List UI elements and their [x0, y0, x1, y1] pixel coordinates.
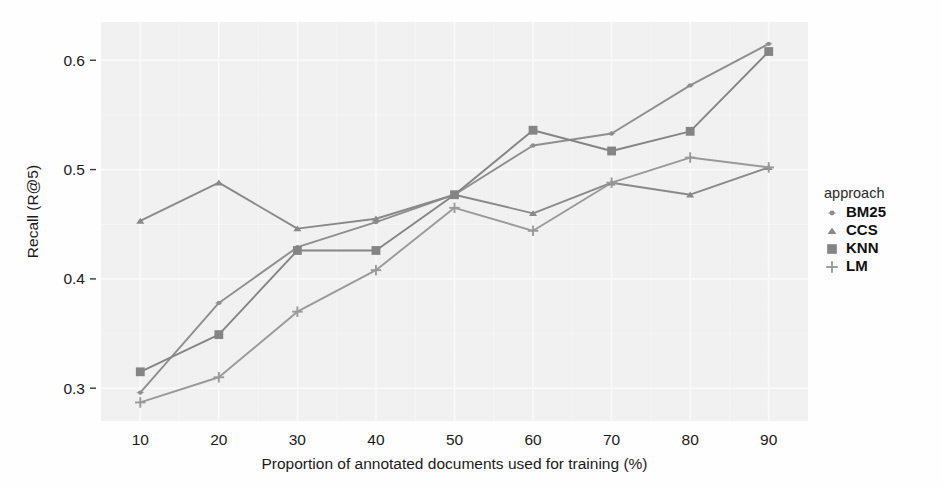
datapoint-knn-40: [372, 246, 381, 255]
x-tick-label-80: 80: [682, 431, 700, 448]
y-tick-label-0.4: 0.4: [63, 270, 85, 287]
x-tick-label-90: 90: [760, 431, 778, 448]
datapoint-knn-10: [136, 367, 145, 376]
x-tick-label-50: 50: [446, 431, 464, 448]
x-tick-label-60: 60: [524, 431, 542, 448]
recall-vs-training-proportion-chart: 0.30.40.50.6102030405060708090Proportion…: [0, 0, 942, 487]
datapoint-knn-50: [450, 190, 459, 199]
marker-circle-flare: [828, 211, 837, 215]
legend-item-bm25[interactable]: BM25: [828, 203, 886, 220]
y-tick-label-0.6: 0.6: [63, 52, 85, 69]
marker-square: [827, 244, 837, 254]
marker-triangle: [828, 228, 837, 234]
y-tick-label-0.5: 0.5: [63, 161, 85, 178]
x-axis-title: Proportion of annotated documents used f…: [261, 455, 647, 472]
legend-title: approach: [824, 185, 884, 201]
datapoint-knn-80: [686, 127, 695, 136]
chart-canvas: 0.30.40.50.6102030405060708090Proportion…: [0, 0, 942, 487]
marker-square: [529, 126, 538, 135]
legend-label-bm25: BM25: [846, 203, 886, 220]
legend-marker-ccs: [828, 228, 837, 234]
legend-marker-knn: [827, 244, 837, 254]
x-tick-label-40: 40: [367, 431, 385, 448]
y-axis-title: Recall (R@5): [24, 165, 41, 258]
legend-item-lm[interactable]: LM: [826, 257, 867, 274]
datapoint-knn-60: [529, 126, 538, 135]
marker-square: [764, 47, 773, 56]
x-tick-label-10: 10: [132, 431, 150, 448]
legend-label-lm: LM: [846, 257, 868, 274]
marker-square: [686, 127, 695, 136]
legend-label-ccs: CCS: [846, 221, 878, 238]
datapoint-knn-20: [214, 330, 223, 339]
datapoint-knn-70: [607, 147, 616, 156]
x-tick-label-70: 70: [603, 431, 621, 448]
marker-square: [214, 330, 223, 339]
y-tick-label-0.3: 0.3: [63, 380, 85, 397]
datapoint-knn-30: [293, 246, 302, 255]
x-tick-label-30: 30: [289, 431, 307, 448]
marker-square: [293, 246, 302, 255]
legend-label-knn: KNN: [846, 239, 879, 256]
legend-marker-lm: [826, 261, 838, 273]
marker-square: [450, 190, 459, 199]
marker-square: [372, 246, 381, 255]
marker-square: [136, 367, 145, 376]
legend-item-ccs[interactable]: CCS: [828, 221, 878, 238]
datapoint-knn-90: [764, 47, 773, 56]
x-tick-label-20: 20: [210, 431, 228, 448]
legend-item-knn[interactable]: KNN: [827, 239, 878, 256]
legend-marker-bm25: [828, 211, 837, 216]
marker-square: [607, 147, 616, 156]
